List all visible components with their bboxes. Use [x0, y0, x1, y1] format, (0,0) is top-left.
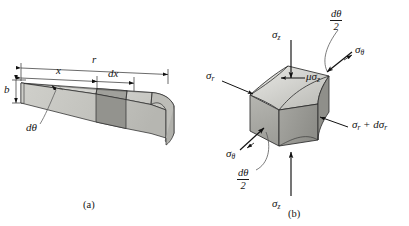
- half-angle-upper-numerator: dθ: [330, 9, 342, 20]
- sigma-r-left-subscript: r: [211, 74, 214, 83]
- label-dim-x: x: [56, 65, 61, 76]
- label-sigma-z-top: σz: [272, 29, 280, 41]
- label-sigma-r-left: σr: [206, 70, 214, 82]
- sigma-r-plus-tail: + dσ: [360, 118, 384, 130]
- mu-sigma-z-symbol: μσ: [306, 70, 317, 82]
- label-dim-b: b: [4, 84, 10, 95]
- half-angle-upper-denominator: 2: [330, 22, 342, 33]
- dimension-line-r: [21, 63, 168, 84]
- element-right-face: [279, 104, 318, 146]
- arrow-sigma-r-plus-dsigma-r: [320, 117, 348, 127]
- wedge-dx-slice-front: [96, 94, 126, 129]
- label-mu-sigma-z: μσz: [306, 71, 320, 83]
- wedge-inner-end-face: [21, 83, 24, 103]
- sigma-r-plus-tail-subscript: r: [384, 123, 387, 132]
- half-angle-tick-lower: [247, 143, 254, 148]
- label-half-angle-lower: dθ 2: [237, 168, 249, 191]
- label-sigma-z-bottom: σz: [272, 198, 280, 210]
- label-dim-dx: dx: [108, 68, 118, 79]
- figure-container: r x dx b dθ (a) σz σz σr σr + dσr μσz σθ…: [0, 0, 409, 226]
- arrow-sigma-r-left: [222, 81, 253, 94]
- caption-panel-a: (a): [83, 199, 95, 210]
- caption-panel-b: (b): [288, 208, 300, 219]
- sigma-theta-lower-subscript: θ: [231, 152, 235, 161]
- label-half-angle-upper: dθ 2: [330, 9, 342, 32]
- label-dim-r: r: [92, 54, 96, 65]
- label-dtheta-wedge: dθ: [26, 122, 37, 133]
- label-sigma-theta-lower: σθ: [226, 148, 235, 160]
- label-sigma-r-plus-dsigma-r: σr + dσr: [352, 119, 387, 131]
- sigma-z-top-subscript: z: [277, 33, 280, 42]
- arrow-sigma-theta-upper: [327, 52, 352, 72]
- mu-sigma-z-subscript: z: [317, 75, 320, 84]
- label-sigma-theta-upper: σθ: [355, 44, 364, 56]
- engineering-diagram-svg: [0, 0, 409, 226]
- half-angle-lower-denominator: 2: [237, 181, 249, 192]
- sigma-theta-upper-subscript: θ: [360, 48, 364, 57]
- sigma-z-bottom-subscript: z: [277, 202, 280, 211]
- half-angle-lower-numerator: dθ: [237, 168, 249, 179]
